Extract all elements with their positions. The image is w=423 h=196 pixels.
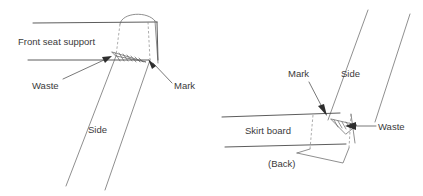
label-waste-left: Waste xyxy=(32,80,59,91)
skirt-board-bottom-edge xyxy=(225,144,346,147)
side-board-inner-edge-hidden xyxy=(148,22,150,60)
diagram-canvas: Front seat support Waste Mark Side xyxy=(0,0,423,196)
left-diagram-group: Front seat support Waste Mark Side xyxy=(18,14,195,190)
side-board-right-long-edge xyxy=(105,60,150,190)
right-side-board-right-edge xyxy=(375,14,410,122)
label-mark-right: Mark xyxy=(288,68,309,79)
technical-diagram-figure: Front seat support Waste Mark Side xyxy=(0,0,423,196)
mark-arrow-head xyxy=(148,59,156,69)
side-board-left-long-edge xyxy=(66,56,116,186)
waste-arrow-head xyxy=(102,56,112,63)
label-side-left: Side xyxy=(88,124,107,135)
label-back: (Back) xyxy=(268,158,295,169)
label-side-right: Side xyxy=(341,68,360,79)
label-waste-right: Waste xyxy=(378,121,405,132)
skirt-board-top-edge xyxy=(222,113,340,117)
joint-left-edge-hidden xyxy=(310,115,313,149)
right-mark-arrow-head xyxy=(318,104,327,116)
right-mark-leader-line xyxy=(309,82,322,107)
side-board-left-edge-hidden xyxy=(116,24,120,56)
right-side-board-left-edge xyxy=(328,10,368,120)
seat-support-top-rail xyxy=(33,22,157,23)
label-skirt-board: Skirt board xyxy=(245,125,291,136)
label-mark-left: Mark xyxy=(174,80,195,91)
label-front-seat-support: Front seat support xyxy=(18,36,95,47)
right-diagram-group: Side Mark Skirt board Waste (Back) xyxy=(222,10,410,169)
waste-leader-line xyxy=(63,60,104,79)
joint-back-face-edge xyxy=(297,149,310,153)
